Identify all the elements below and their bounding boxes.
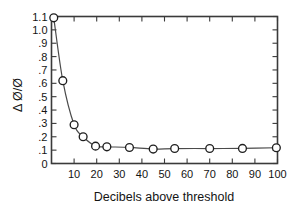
data-point: [59, 77, 67, 85]
data-point: [239, 145, 247, 153]
x-tick-label: 90: [249, 168, 261, 180]
y-tick-label: 1.0: [32, 24, 47, 36]
data-point: [50, 14, 58, 22]
x-tick-label: 100: [268, 168, 286, 180]
data-point: [103, 143, 111, 151]
y-tick-label: .1: [38, 144, 47, 156]
y-tick-label: .5: [38, 91, 47, 103]
x-axis-title: Decibels above threshold: [94, 190, 234, 204]
x-tick-label: 30: [113, 168, 125, 180]
x-tick-label: 10: [68, 168, 80, 180]
data-point: [272, 144, 280, 152]
y-tick-label: .4: [38, 104, 47, 116]
y-axis-title: Δ Ø/Ø: [11, 78, 25, 112]
data-point: [70, 121, 78, 129]
y-tick-label: 0: [41, 158, 47, 170]
data-point: [79, 133, 87, 141]
y-tick-label: .9: [38, 37, 47, 49]
data-point: [126, 144, 134, 152]
y-tick-label: .3: [38, 117, 47, 129]
data-point: [149, 145, 157, 153]
y-tick-label: .8: [38, 51, 47, 63]
x-tick-label: 60: [181, 168, 193, 180]
data-point: [171, 145, 179, 153]
x-tick-label: 70: [204, 168, 216, 180]
scatter-line-chart: 0.1.2.3.4.5.6.7.8.91.01.1 10203040506070…: [0, 0, 305, 218]
x-tick-label: 50: [158, 168, 170, 180]
y-tick-label: 1.1: [32, 11, 47, 23]
y-tick-label: .2: [38, 131, 47, 143]
x-tick-label: 20: [91, 168, 103, 180]
x-tick-label: 40: [136, 168, 148, 180]
data-point: [92, 142, 100, 150]
data-point: [206, 145, 214, 153]
y-tick-label: .6: [38, 77, 47, 89]
x-tick-label: 80: [226, 168, 238, 180]
y-tick-label: .7: [38, 64, 47, 76]
